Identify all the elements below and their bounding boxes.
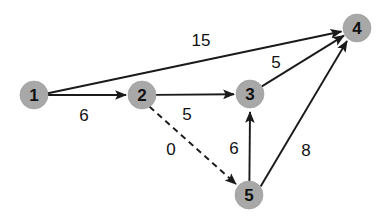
node-circle-1 [20,81,48,109]
edge-2-to-3[interactable]: 5 [156,94,234,123]
edge-weight-1-4: 15 [192,31,211,50]
graph-node-4[interactable]: 4 [343,14,371,42]
edge-weight-5-3: 6 [229,139,238,158]
edge-weight-5-4: 8 [301,141,310,160]
graph-node-1[interactable]: 1 [20,81,48,109]
edge-1-to-4[interactable]: 15 [48,31,341,94]
edge-line-2-3 [156,94,234,95]
node-circle-2 [128,81,156,109]
edge-2-to-5[interactable]: 0 [150,107,236,184]
graph-node-3[interactable]: 3 [236,80,264,108]
edge-1-to-2[interactable]: 6 [48,95,126,125]
edge-weight-3-4: 5 [271,53,280,72]
node-circle-4 [343,14,371,42]
node-circle-5 [235,181,263,209]
node-circle-3 [236,80,264,108]
edge-weight-2-3: 5 [182,105,191,124]
graph-diagram: 15 6 5 0 5 [0,0,392,222]
graph-node-5[interactable]: 5 [235,181,263,209]
edge-line-5-3 [249,112,250,181]
edge-weight-2-5: 0 [166,140,175,159]
graph-node-2[interactable]: 2 [128,81,156,109]
edge-5-to-3[interactable]: 6 [229,112,250,181]
edge-line-2-5 [150,107,236,184]
edge-weight-1-2: 6 [79,106,88,125]
edge-3-to-4[interactable]: 5 [262,36,344,87]
graph-canvas-svg: 15 6 5 0 5 [0,0,392,222]
edge-layer: 15 6 5 0 5 [48,31,347,187]
